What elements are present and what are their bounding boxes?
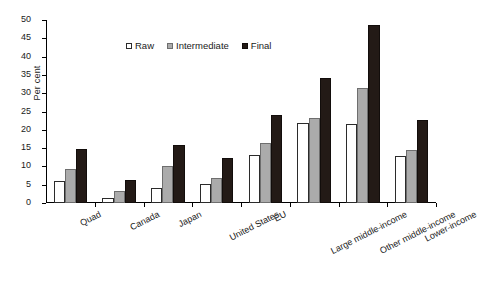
bar-intermediate — [309, 118, 320, 203]
bar-final — [222, 158, 233, 203]
bar-raw — [395, 156, 406, 203]
legend-item-raw: Raw — [126, 40, 154, 51]
bar-intermediate — [162, 166, 173, 203]
bar-final — [417, 120, 428, 203]
x-axis-label: Japan — [176, 209, 202, 229]
y-axis-line — [46, 20, 47, 203]
y-tick-label: 15 — [5, 143, 31, 152]
x-tick — [241, 203, 242, 207]
y-tick-label: 0 — [5, 198, 31, 207]
bar-raw — [297, 123, 308, 203]
y-tick — [42, 166, 46, 167]
legend-swatch-final — [242, 43, 248, 49]
y-tick — [42, 38, 46, 39]
bar-raw — [249, 155, 260, 203]
y-tick-label: 20 — [5, 125, 31, 134]
bar-raw — [54, 181, 65, 203]
x-axis-label: Canada — [128, 209, 161, 232]
y-tick — [42, 20, 46, 21]
bar-raw — [102, 198, 113, 203]
y-tick-label: 25 — [5, 107, 31, 116]
x-tick — [192, 203, 193, 207]
legend: Raw Intermediate Final — [126, 40, 271, 51]
bar-final — [320, 78, 331, 203]
bar-final — [271, 115, 282, 203]
y-tick-label: 5 — [5, 180, 31, 189]
y-tick — [42, 57, 46, 58]
y-tick-label: 30 — [5, 88, 31, 97]
legend-label-final: Final — [251, 40, 272, 51]
bar-final — [173, 145, 184, 203]
y-tick — [42, 75, 46, 76]
y-tick — [42, 185, 46, 186]
y-tick — [42, 130, 46, 131]
y-tick — [42, 93, 46, 94]
bar-raw — [346, 124, 357, 203]
x-tick — [339, 203, 340, 207]
x-tick — [387, 203, 388, 207]
y-tick-label: 40 — [5, 52, 31, 61]
bar-intermediate — [211, 178, 222, 203]
y-tick-label: 10 — [5, 161, 31, 170]
legend-item-final: Final — [242, 40, 272, 51]
y-tick-label: 35 — [5, 70, 31, 79]
x-tick — [144, 203, 145, 207]
bar-final — [76, 149, 87, 203]
legend-item-intermediate: Intermediate — [167, 40, 229, 51]
y-axis-title: Per cent — [32, 48, 42, 118]
y-tick — [42, 148, 46, 149]
bar-raw — [200, 184, 211, 203]
x-tick — [436, 203, 437, 207]
bar-intermediate — [114, 191, 125, 203]
y-tick-label: 50 — [5, 15, 31, 24]
x-axis-label: Large middle-income — [329, 209, 408, 256]
bar-raw — [151, 188, 162, 203]
bar-intermediate — [406, 150, 417, 203]
x-axis-label: Quad — [79, 209, 103, 228]
legend-label-intermediate: Intermediate — [176, 40, 229, 51]
y-tick — [42, 203, 46, 204]
bar-intermediate — [65, 169, 76, 203]
y-tick-label: 45 — [5, 33, 31, 42]
legend-swatch-raw — [126, 43, 132, 49]
y-tick — [42, 112, 46, 113]
legend-swatch-intermediate — [167, 43, 173, 49]
bar-intermediate — [260, 143, 271, 203]
bar-intermediate — [357, 88, 368, 203]
legend-label-raw: Raw — [135, 40, 154, 51]
x-tick — [95, 203, 96, 207]
bar-final — [125, 180, 136, 203]
bar-final — [368, 25, 379, 203]
x-tick — [290, 203, 291, 207]
